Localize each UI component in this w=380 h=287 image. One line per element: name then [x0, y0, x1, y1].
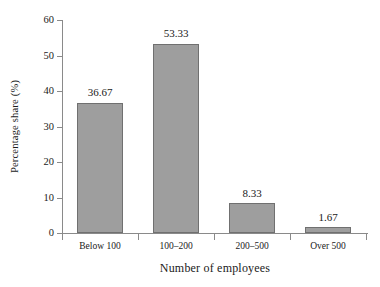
- bar-value-label-200-500: 8.33: [222, 187, 282, 199]
- y-tick-10: [57, 198, 62, 199]
- y-tick-label-10: 10: [14, 193, 54, 203]
- bar-value-label-100-200: 53.33: [146, 27, 206, 39]
- y-tick-60: [57, 20, 62, 21]
- y-axis-line: [62, 20, 63, 234]
- x-category-label-over-500: Over 500: [288, 240, 368, 252]
- bar-chart-figure: Percentage share (%) 0 10 20 30 40 50 60…: [0, 0, 380, 287]
- x-category-label-100-200: 100–200: [136, 240, 216, 252]
- y-tick-30: [57, 127, 62, 128]
- bar-over-500: [305, 227, 351, 233]
- bar-below-100: [77, 103, 123, 233]
- y-tick-label-50: 50: [14, 51, 54, 61]
- y-tick-label-0: 0: [14, 228, 54, 238]
- y-tick-label-20: 20: [14, 157, 54, 167]
- bar-200-500: [229, 203, 275, 233]
- x-axis-line: [62, 233, 368, 234]
- y-tick-50: [57, 56, 62, 57]
- bar-value-label-below-100: 36.67: [70, 86, 130, 98]
- bar-value-label-over-500: 1.67: [298, 211, 358, 223]
- x-category-label-below-100: Below 100: [60, 240, 140, 252]
- y-tick-40: [57, 91, 62, 92]
- y-tick-label-40: 40: [14, 86, 54, 96]
- y-tick-20: [57, 162, 62, 163]
- x-category-label-200-500: 200–500: [212, 240, 292, 252]
- y-tick-label-60: 60: [14, 15, 54, 25]
- x-axis-title: Number of employees: [62, 261, 368, 276]
- bar-100-200: [153, 44, 199, 233]
- y-tick-label-30: 30: [14, 122, 54, 132]
